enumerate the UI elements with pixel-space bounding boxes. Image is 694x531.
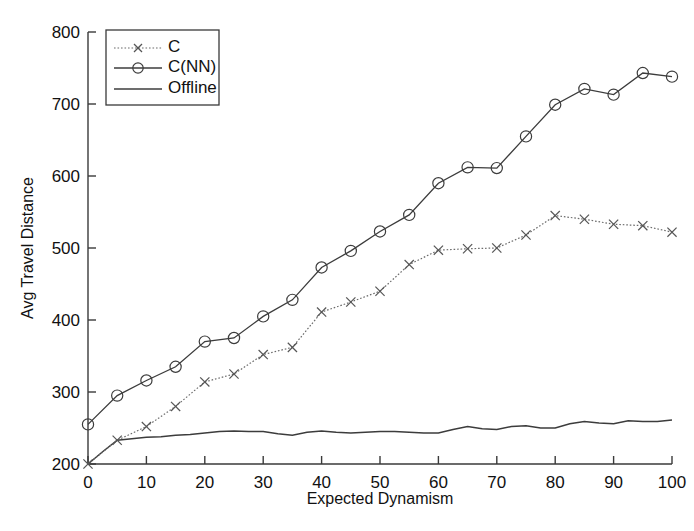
- c-marker-cross: [171, 402, 180, 411]
- c-marker-cross: [229, 369, 238, 378]
- y-tick-label: 400: [52, 311, 80, 330]
- y-axis-ticks: 200300400500600700800: [52, 23, 96, 474]
- legend-label-offline: Offline: [168, 78, 217, 97]
- x-tick-label: 30: [254, 473, 273, 492]
- y-tick-label: 700: [52, 95, 80, 114]
- c-marker-cross: [259, 350, 268, 359]
- c-marker-cross: [434, 246, 443, 255]
- x-tick-label: 100: [658, 473, 686, 492]
- x-tick-label: 70: [487, 473, 506, 492]
- c-line: [88, 216, 672, 464]
- x-tick-label: 0: [83, 473, 92, 492]
- legend-label-c-nn: C(NN): [168, 57, 216, 76]
- y-axis-title: Avg Travel Distance: [19, 177, 36, 319]
- y-tick-label: 200: [52, 455, 80, 474]
- x-tick-label: 10: [137, 473, 156, 492]
- chart-legend: C C(NN) Offline: [106, 30, 219, 105]
- legend-label-c: C: [168, 37, 180, 56]
- c-marker-cross: [375, 287, 384, 296]
- c-marker-cross: [317, 307, 326, 316]
- y-tick-label: 500: [52, 239, 80, 258]
- x-tick-label: 20: [195, 473, 214, 492]
- c-marker-cross: [142, 422, 151, 431]
- y-tick-label: 600: [52, 167, 80, 186]
- series-c: [83, 211, 676, 469]
- y-tick-label: 300: [52, 383, 80, 402]
- c-nn-line: [88, 73, 672, 424]
- c-marker-cross: [638, 221, 647, 230]
- c-marker-cross: [580, 215, 589, 224]
- c-marker-cross: [288, 343, 297, 352]
- series-c-nn: [82, 67, 677, 430]
- x-tick-label: 80: [546, 473, 565, 492]
- c-marker-cross: [521, 230, 530, 239]
- c-marker-cross: [200, 377, 209, 386]
- c-marker-cross: [346, 297, 355, 306]
- c-marker-cross: [405, 260, 414, 269]
- x-axis-title: Expected Dynamism: [307, 490, 454, 507]
- x-tick-label: 90: [604, 473, 623, 492]
- chart-canvas: 200300400500600700800 010203040506070809…: [0, 0, 694, 531]
- c-marker-cross: [667, 228, 676, 237]
- x-axis-ticks: 0102030405060708090100: [83, 456, 686, 492]
- y-tick-label: 800: [52, 23, 80, 42]
- chart-figure: 200300400500600700800 010203040506070809…: [0, 0, 694, 531]
